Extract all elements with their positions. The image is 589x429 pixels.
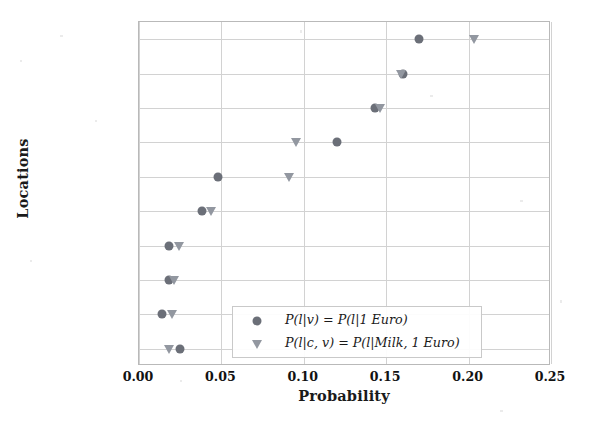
legend-entry-1: P(l|c, v) = P(l|Milk, 1 Euro) [233, 332, 481, 356]
data-point [332, 138, 341, 147]
data-point [206, 207, 216, 216]
legend-label-0: P(l|v) = P(l|1 Euro) [285, 312, 408, 327]
data-point [169, 276, 179, 285]
legend-box: P(l|v) = P(l|1 Euro) P(l|c, v) = P(l|Mil… [232, 306, 482, 358]
data-point [396, 70, 406, 79]
data-point [158, 310, 167, 319]
data-point [469, 35, 479, 44]
scan-artifact [60, 35, 63, 37]
y-gridline [139, 39, 549, 40]
y-gridline [139, 246, 549, 247]
data-point [375, 104, 385, 113]
y-gridline [139, 108, 549, 109]
data-point [167, 310, 177, 319]
data-point [176, 344, 185, 353]
triangle-down-marker-icon [252, 340, 262, 349]
legend-label-1: P(l|c, v) = P(l|Milk, 1 Euro) [285, 335, 460, 350]
scan-artifact [560, 300, 562, 303]
x-gridline [551, 22, 552, 364]
scan-artifact [30, 260, 32, 262]
scan-artifact [95, 120, 97, 122]
y-axis-title: Locations [14, 119, 31, 239]
scan-artifact [520, 200, 523, 202]
data-point [415, 35, 424, 44]
y-gridline [139, 280, 549, 281]
data-point [174, 242, 184, 251]
scan-artifact [180, 380, 182, 382]
x-tick-label: 0.10 [273, 369, 333, 384]
y-gridline [139, 74, 549, 75]
x-tick-label: 0.00 [108, 369, 168, 384]
data-point [214, 172, 223, 181]
scan-artifact [500, 410, 503, 412]
legend-entry-0: P(l|v) = P(l|1 Euro) [233, 309, 481, 333]
x-tick-label: 0.15 [355, 369, 415, 384]
data-point [164, 241, 173, 250]
data-point [164, 345, 174, 354]
circle-marker-icon [253, 317, 262, 326]
scan-artifact [430, 95, 433, 97]
y-gridline [139, 142, 549, 143]
scan-artifact [300, 30, 302, 33]
scan-artifact [20, 60, 22, 62]
scatter-chart-figure: Locations FranceGermanyItalySpainChinaNe… [0, 0, 589, 429]
x-axis-title: Probability [138, 387, 550, 404]
x-tick-label: 0.20 [438, 369, 498, 384]
x-tick-label: 0.25 [520, 369, 580, 384]
data-point [284, 173, 294, 182]
x-tick-label: 0.05 [190, 369, 250, 384]
y-gridline [139, 177, 549, 178]
data-point [291, 138, 301, 147]
